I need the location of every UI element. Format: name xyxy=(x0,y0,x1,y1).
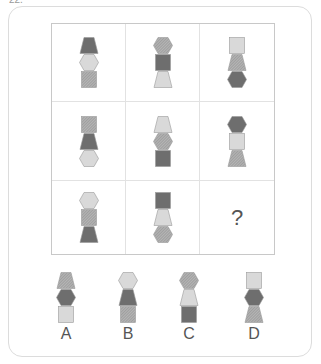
shape-stack xyxy=(79,192,99,243)
question-mark: ? xyxy=(231,205,243,231)
grid-cell-1-3 xyxy=(200,24,274,102)
grid-cell-3-3-missing: ? xyxy=(200,181,274,254)
trapezoid-hatch-icon xyxy=(227,150,247,167)
answer-options: A B C D xyxy=(40,272,280,342)
option-b[interactable]: B xyxy=(108,272,148,343)
square-dark-icon xyxy=(179,306,199,323)
hexagon-hatch-icon xyxy=(179,272,199,289)
shape-stack xyxy=(56,272,76,323)
square-hatch-icon xyxy=(79,209,99,226)
option-c[interactable]: C xyxy=(169,272,209,343)
option-label: D xyxy=(248,325,260,343)
trapezoid-dark-icon xyxy=(79,133,99,150)
trapezoid-light-icon xyxy=(153,209,173,226)
shape-stack xyxy=(227,37,247,88)
trapezoid-dark-icon xyxy=(118,289,138,306)
trapezoid-light-icon xyxy=(153,71,173,88)
trapezoid-dark-icon xyxy=(79,226,99,243)
trapezoid-light-icon xyxy=(153,116,173,133)
square-dark-icon xyxy=(153,192,173,209)
hexagon-hatch-icon xyxy=(153,226,173,243)
option-a[interactable]: A xyxy=(46,272,86,343)
grid-cell-1-2 xyxy=(126,24,200,102)
trapezoid-hatch-icon xyxy=(227,54,247,71)
trapezoid-light-icon xyxy=(179,289,199,306)
grid-cell-1-1 xyxy=(52,24,126,102)
shape-stack xyxy=(153,116,173,167)
square-light-icon xyxy=(244,272,264,289)
shape-stack xyxy=(153,37,173,88)
question-number: 22. xyxy=(9,0,23,5)
hexagon-hatch-icon xyxy=(153,133,173,150)
grid-cell-3-1 xyxy=(52,181,126,254)
shape-stack xyxy=(227,116,247,167)
grid-cell-2-1 xyxy=(52,102,126,181)
square-hatch-icon xyxy=(79,116,99,133)
shape-stack xyxy=(118,272,138,323)
trapezoid-hatch-icon xyxy=(244,306,264,323)
trapezoid-hatch-icon xyxy=(56,272,76,289)
grid-cell-2-2 xyxy=(126,102,200,181)
hexagon-light-icon xyxy=(79,192,99,209)
square-dark-icon xyxy=(153,54,173,71)
shape-stack xyxy=(244,272,264,323)
option-label: B xyxy=(123,325,134,343)
square-dark-icon xyxy=(153,150,173,167)
hexagon-dark-icon xyxy=(56,289,76,306)
hexagon-dark-icon xyxy=(227,71,247,88)
shape-stack xyxy=(79,37,99,88)
option-d[interactable]: D xyxy=(234,272,274,343)
square-hatch-icon xyxy=(79,71,99,88)
shape-stack xyxy=(79,116,99,167)
hexagon-light-icon xyxy=(79,150,99,167)
option-label: A xyxy=(61,325,72,343)
puzzle-grid: ? xyxy=(51,23,275,255)
grid-cell-2-3 xyxy=(200,102,274,181)
square-light-icon xyxy=(227,37,247,54)
trapezoid-dark-icon xyxy=(79,37,99,54)
square-light-icon xyxy=(227,133,247,150)
shape-stack xyxy=(153,192,173,243)
hexagon-dark-icon xyxy=(227,116,247,133)
grid-cell-3-2 xyxy=(126,181,200,254)
option-label: C xyxy=(183,325,195,343)
square-light-icon xyxy=(56,306,76,323)
hexagon-light-icon xyxy=(79,54,99,71)
hexagon-light-icon xyxy=(118,272,138,289)
hexagon-hatch-icon xyxy=(153,37,173,54)
square-hatch-icon xyxy=(118,306,138,323)
shape-stack xyxy=(179,272,199,323)
hexagon-dark-icon xyxy=(244,289,264,306)
